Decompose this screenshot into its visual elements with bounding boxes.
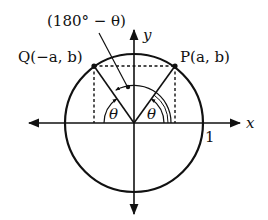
angle-right-label: θ: [147, 105, 156, 123]
point-q: [91, 63, 96, 68]
point-q-label: Q(−a, b): [18, 48, 83, 66]
annotation-dot: [126, 85, 130, 89]
radius-label: 1: [205, 128, 215, 146]
point-p-label: P(a, b): [180, 48, 230, 66]
annotation-supplement-label: (180° − θ): [47, 12, 126, 30]
angle-left-label: θ: [109, 105, 118, 123]
y-axis-label: y: [142, 26, 152, 44]
x-axis-label: x: [246, 114, 255, 132]
unit-circle-diagram: (180° − θ) Q(−a, b) P(a, b) y x 1 θ θ: [0, 0, 268, 220]
point-p: [172, 63, 177, 68]
